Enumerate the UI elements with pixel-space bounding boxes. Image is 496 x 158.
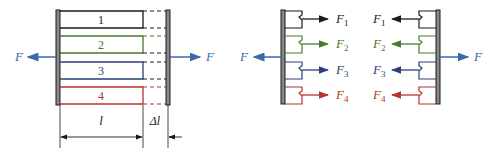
bar-3: 3	[60, 62, 166, 79]
force-left-label: F	[14, 49, 24, 64]
fb-right-plate	[436, 10, 440, 104]
fb-right-f1-label: F1	[372, 11, 385, 28]
fb-left-stub-2: F2	[285, 36, 348, 53]
right-plate	[166, 10, 170, 105]
fb-right-stub-4: F4	[372, 87, 436, 104]
fb-right-force-label: F	[473, 49, 483, 64]
free-body-right-part: F F1 F2 F3 F4	[372, 10, 483, 104]
fb-left-plate	[281, 10, 285, 104]
fb-right-stub-1: F1	[372, 11, 436, 28]
free-body-left-part: F F1 F2 F3 F4	[239, 10, 349, 104]
left-diagram: 1 2 3 4 F F	[14, 10, 215, 148]
fb-left-stub-4: F4	[285, 87, 349, 104]
bar-4-label: 4	[98, 89, 104, 103]
bar-assembly-diagram: 1 2 3 4 F F	[0, 0, 496, 158]
fb-right-f2-label: F2	[372, 36, 385, 53]
bar-4: 4	[60, 87, 166, 104]
bar-3-label: 3	[98, 64, 104, 78]
bar-1-label: 1	[98, 13, 104, 27]
fb-left-f2-label: F2	[335, 36, 348, 53]
dimension-lines: l Δl	[60, 105, 182, 148]
force-right-label: F	[205, 49, 215, 64]
fb-left-f1-label: F1	[335, 11, 348, 28]
length-label: l	[99, 113, 103, 128]
bar-1: 1	[60, 11, 166, 28]
fb-left-stub-3: F3	[285, 62, 349, 79]
bar-2: 2	[60, 36, 166, 53]
left-plate	[56, 10, 60, 105]
fb-left-force-label: F	[239, 49, 249, 64]
fb-left-stub-1: F1	[285, 11, 348, 28]
fb-left-f4-label: F4	[335, 87, 349, 104]
fb-right-stub-3: F3	[372, 62, 436, 79]
bar-2-label: 2	[98, 38, 104, 52]
fb-right-f4-label: F4	[372, 87, 386, 104]
fb-right-stub-2: F2	[372, 36, 436, 53]
fb-right-f3-label: F3	[372, 62, 386, 79]
fb-left-f3-label: F3	[335, 62, 349, 79]
elongation-label: Δl	[149, 114, 161, 128]
